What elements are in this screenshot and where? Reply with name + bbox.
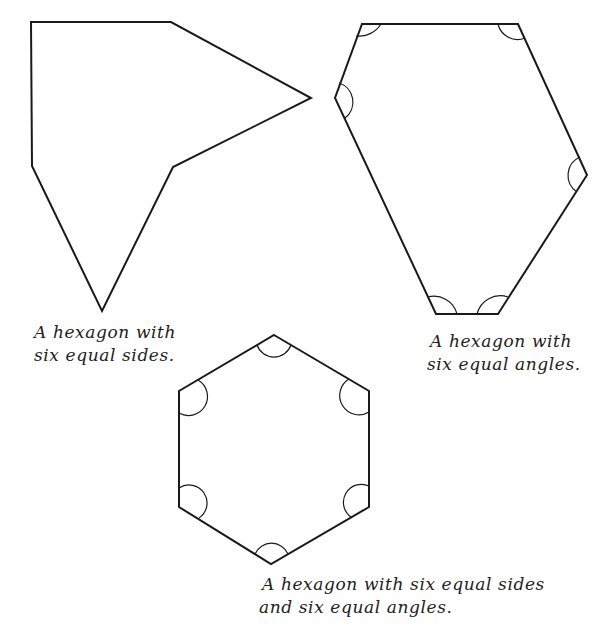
angle-mark [255,543,288,554]
angle-mark [179,380,208,416]
caption-line: A hexagon with six equal sides [262,573,545,596]
caption-regular-hexagon: A hexagon with six equal sides and six e… [262,573,545,619]
caption-equal-sides: A hexagon with six equal sides. [34,321,176,367]
angle-mark [179,485,207,518]
hexagon-equal-angles [335,24,587,314]
caption-equal-angles: A hexagon with six equal angles. [430,330,581,376]
caption-line: A hexagon with [430,330,581,353]
caption-line: A hexagon with [34,321,176,344]
hexagon-equal-sides [31,22,311,311]
regular-hexagon [179,335,369,564]
angle-mark [568,157,580,192]
caption-line: six equal angles. [427,353,581,376]
caption-line: six equal sides. [34,344,176,367]
angle-mark [343,484,369,517]
caption-line: and six equal angles. [259,596,545,619]
hexagons-figure [0,0,597,639]
angle-mark [340,379,369,415]
angle-mark [257,345,291,357]
